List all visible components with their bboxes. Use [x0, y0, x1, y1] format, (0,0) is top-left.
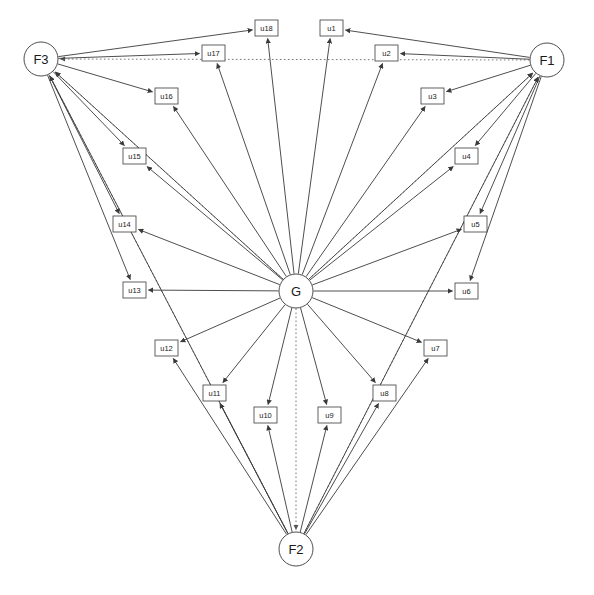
solid-edge-f3-to-u13 [48, 75, 131, 279]
solid-edge-f1-to-u5 [480, 76, 540, 213]
residual-node-u3[interactable]: u3 [421, 88, 444, 104]
residual-label-u17: u17 [207, 49, 220, 58]
residual-node-u14[interactable]: u14 [113, 216, 136, 232]
solid-edge-f2-to-u7 [306, 359, 428, 535]
solid-edge-f2-to-u9 [300, 426, 327, 533]
residual-label-u7: u7 [431, 344, 439, 353]
node-layer: F3F1GF2u1u2u3u4u5u6u7u8u9u10u11u12u13u14… [24, 20, 564, 566]
solid-edge-g-to-u12 [181, 298, 280, 342]
factor-label-f3: F3 [33, 52, 48, 67]
solid-edge-g-to-u4 [310, 167, 454, 281]
factor-label-g: G [291, 284, 301, 299]
dotted-edge-f1-to-f3 [61, 59, 530, 60]
residual-node-u7[interactable]: u7 [424, 340, 447, 356]
solid-edge-f2-to-f3 [50, 76, 288, 533]
residual-node-u8[interactable]: u8 [373, 385, 396, 401]
solid-edge-f1-to-u4 [475, 73, 535, 145]
residual-label-u10: u10 [259, 411, 272, 420]
factor-label-f1: F1 [539, 53, 554, 68]
residual-node-u6[interactable]: u6 [455, 283, 478, 299]
factor-label-f2: F2 [288, 542, 303, 557]
factor-node-g[interactable]: G [279, 274, 313, 308]
solid-edge-f1-to-u3 [447, 65, 531, 91]
solid-edge-g-to-u11 [223, 305, 285, 383]
solid-edge-g-to-u17 [217, 64, 290, 275]
residual-node-u2[interactable]: u2 [375, 45, 398, 61]
residual-node-u11[interactable]: u11 [203, 385, 226, 401]
solid-edge-f3-to-u17 [58, 53, 199, 58]
factor-node-f1[interactable]: F1 [530, 43, 564, 77]
solid-edge-f3-to-u14 [49, 75, 119, 214]
solid-edge-g-to-u3 [306, 107, 425, 277]
solid-edge-g-to-u10 [268, 308, 292, 405]
solid-edge-g-to-u15 [147, 167, 283, 280]
solid-edge-f2-to-u10 [268, 426, 292, 532]
residual-label-u3: u3 [428, 92, 436, 101]
solid-edge-f1-to-u6 [470, 77, 541, 281]
residual-label-u5: u5 [471, 220, 479, 229]
residual-node-u10[interactable]: u10 [254, 407, 277, 423]
residual-label-u14: u14 [118, 220, 131, 229]
solid-edge-f2-to-f1 [304, 77, 538, 533]
residual-label-u8: u8 [380, 389, 388, 398]
solid-edge-g-to-u5 [312, 229, 461, 285]
residual-label-u11: u11 [209, 389, 221, 398]
diagram-canvas: F3F1GF2u1u2u3u4u5u6u7u8u9u10u11u12u13u14… [0, 0, 594, 595]
residual-label-u9: u9 [325, 411, 333, 420]
solid-edge-g-to-u18 [268, 39, 294, 274]
residual-node-u9[interactable]: u9 [318, 407, 341, 423]
factor-node-f2[interactable]: F2 [279, 532, 313, 566]
residual-node-u1[interactable]: u1 [320, 20, 343, 36]
residual-node-u4[interactable]: u4 [455, 148, 478, 164]
residual-label-u4: u4 [462, 152, 470, 161]
solid-edge-g-to-u16 [173, 107, 286, 277]
residual-node-u18[interactable]: u18 [255, 20, 278, 36]
residual-node-u17[interactable]: u17 [202, 45, 225, 61]
factor-node-f3[interactable]: F3 [24, 42, 58, 76]
solid-edge-g-to-u13 [149, 290, 279, 291]
residual-label-u1: u1 [327, 24, 335, 33]
solid-edge-f2-to-u12 [173, 359, 286, 535]
residual-label-u15: u15 [128, 152, 141, 161]
residual-node-u16[interactable]: u16 [155, 88, 178, 104]
residual-node-u12[interactable]: u12 [155, 340, 178, 356]
solid-edge-g-to-u1 [298, 39, 330, 274]
residual-label-u6: u6 [462, 287, 470, 296]
residual-node-u15[interactable]: u15 [123, 148, 146, 164]
residual-label-u12: u12 [160, 344, 173, 353]
solid-edge-f3-to-u15 [53, 72, 124, 146]
solid-edge-f1-to-u1 [346, 30, 530, 57]
path-diagram-svg: F3F1GF2u1u2u3u4u5u6u7u8u9u10u11u12u13u14… [0, 0, 594, 595]
residual-node-u13[interactable]: u13 [123, 282, 146, 298]
residual-node-u5[interactable]: u5 [464, 216, 487, 232]
residual-label-u18: u18 [260, 24, 273, 33]
residual-label-u2: u2 [382, 49, 390, 58]
residual-label-u13: u13 [128, 286, 141, 295]
solid-edge-g-to-u2 [302, 64, 382, 275]
residual-label-u16: u16 [160, 92, 173, 101]
